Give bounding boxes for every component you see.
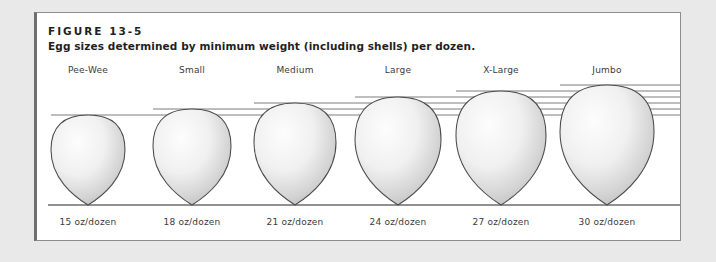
egg-weight-label-large: 24 oz/dozen [370, 217, 427, 227]
egg-weight-label-pee-wee: 15 oz/dozen [60, 217, 117, 227]
egg-size-chart: Pee-Wee15 oz/dozenSmall18 oz/dozenMedium… [37, 13, 681, 241]
egg-size-label-jumbo: Jumbo [592, 65, 621, 75]
chart-svg [37, 13, 681, 241]
egg-weight-label-small: 18 oz/dozen [164, 217, 221, 227]
egg-weight-label-jumbo: 30 oz/dozen [579, 217, 636, 227]
egg-weight-label-medium: 21 oz/dozen [267, 217, 324, 227]
egg-size-label-small: Small [179, 65, 205, 75]
egg-size-label-large: Large [385, 65, 411, 75]
figure-panel: FIGURE 13-5 Egg sizes determined by mini… [34, 12, 681, 241]
egg-size-label-medium: Medium [276, 65, 313, 75]
egg-weight-label-x-large: 27 oz/dozen [473, 217, 530, 227]
egg-size-label-pee-wee: Pee-Wee [68, 65, 108, 75]
egg-size-label-x-large: X-Large [483, 65, 519, 75]
